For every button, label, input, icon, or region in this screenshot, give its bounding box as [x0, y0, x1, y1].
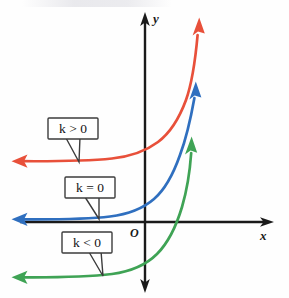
- callout-k-positive-label: k > 0: [59, 121, 87, 136]
- callout-k-positive-tail: [66, 137, 80, 162]
- callout-k-negative-label: k < 0: [73, 235, 101, 250]
- callout-k-zero[interactable]: k = 0: [65, 177, 115, 219]
- red-curve-path: [22, 35, 198, 161]
- callout-k-zero-label: k = 0: [76, 180, 104, 195]
- green-curve-path: [22, 153, 191, 277]
- exponential-curves-figure: y x O k > 0: [0, 0, 289, 298]
- red-curve: [12, 18, 205, 168]
- y-axis-label: y: [151, 11, 159, 26]
- origin-label: O: [130, 226, 139, 240]
- x-axis-label: x: [259, 228, 267, 243]
- callout-k-positive[interactable]: k > 0: [48, 118, 98, 162]
- red-curve-top-arrow-icon: [193, 18, 205, 36]
- axes-group: y x O: [20, 11, 274, 293]
- callout-k-zero-tail: [85, 196, 99, 219]
- callout-k-negative-tail: [89, 251, 103, 276]
- blue-curve: [12, 82, 202, 226]
- graph-canvas: y x O k > 0: [0, 0, 289, 298]
- callout-k-negative[interactable]: k < 0: [62, 232, 112, 276]
